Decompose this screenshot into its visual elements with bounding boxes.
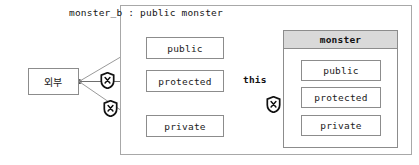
this-label: this (243, 74, 267, 85)
shield-x-icon (266, 96, 281, 113)
outer-member-private-label: private (164, 121, 205, 132)
outer-member-protected-label: protected (158, 76, 211, 87)
external-box: 외부 (28, 68, 79, 95)
shield-x-icon (103, 100, 118, 117)
external-label: 외부 (44, 74, 62, 89)
inner-member-private: private (301, 115, 381, 136)
outer-member-public-label: public (167, 43, 203, 54)
outer-member-private: private (146, 115, 224, 137)
inner-member-public: public (301, 60, 381, 81)
inner-class-header: monster (283, 30, 398, 49)
inner-member-protected-label: protected (314, 92, 367, 103)
inner-class-header-label: monster (320, 34, 361, 45)
diagram-canvas: 외부 monster_b : public monster public pro… (0, 0, 419, 165)
inner-member-private-label: private (320, 120, 361, 131)
shield-x-icon (100, 72, 115, 89)
outer-class-title: monster_b : public monster (0, 7, 292, 18)
outer-member-public: public (146, 37, 224, 59)
inner-member-protected: protected (301, 87, 381, 108)
outer-member-protected: protected (146, 70, 224, 92)
inner-member-public-label: public (323, 65, 359, 76)
